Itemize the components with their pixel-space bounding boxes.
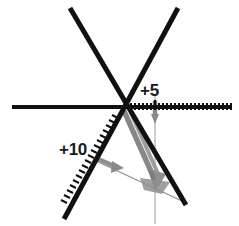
scale-label-plus5: +5 (140, 82, 159, 99)
vector-junction-blob (140, 178, 170, 194)
diagonal-ruler (61, 115, 118, 203)
component-vector-down-arrowhead (151, 114, 159, 124)
scale-label-plus10: +10 (59, 141, 87, 158)
diagram-canvas (0, 0, 239, 226)
vector-diagram-figure: +5 +10 (0, 0, 239, 226)
